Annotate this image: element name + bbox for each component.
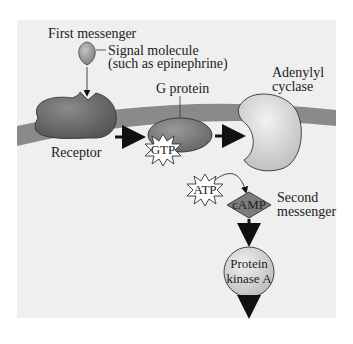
- protein-kinase-a-label: Protein: [230, 256, 268, 271]
- receptor-label: Receptor: [51, 145, 102, 160]
- second-messenger-sublabel: messenger: [277, 204, 336, 219]
- svg-text:GTP: GTP: [151, 142, 176, 157]
- svg-text:cAMP: cAMP: [232, 197, 266, 212]
- adenylyl-cyclase-sublabel: cyclase: [272, 79, 313, 94]
- camp-signaling-diagram: First messenger Signal molecule (such as…: [0, 0, 353, 344]
- svg-text:ATP: ATP: [193, 182, 216, 197]
- g-protein-label: G protein: [156, 81, 209, 96]
- first-messenger-label: First messenger: [48, 26, 137, 41]
- second-messenger-label: Second: [277, 190, 318, 205]
- adenylyl-cyclase-label: Adenylyl: [272, 65, 324, 80]
- signal-molecule-sublabel: (such as epinephrine): [108, 56, 228, 72]
- protein-kinase-a-sublabel: kinase A: [226, 271, 272, 286]
